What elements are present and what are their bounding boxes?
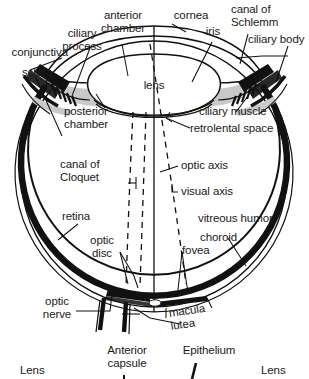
label-posterior-chamber: posterior chamber xyxy=(64,105,128,130)
label-lens-left: Lens xyxy=(20,364,70,377)
label-optic-axis: optic axis xyxy=(181,159,247,172)
label-anterior-chamber: anterior chamber xyxy=(88,9,158,34)
label-choroid: choroid xyxy=(200,231,258,244)
label-epithelium: Epithelium xyxy=(173,344,245,357)
label-cornea: cornea xyxy=(165,9,217,22)
label-fovea: fovea xyxy=(182,244,226,257)
label-optic-disc: optic disc xyxy=(82,234,122,259)
eye-anatomy-figure: conjunctiva sclera ciliary process anter… xyxy=(0,0,309,379)
label-iris: iris xyxy=(198,25,228,38)
label-canal-of-schlemm: canal of Schlemm xyxy=(231,3,307,28)
label-sclera: sclera xyxy=(4,66,52,79)
label-visual-axis: visual axis xyxy=(181,185,249,198)
label-anterior-capsule: Anterior capsule xyxy=(96,344,158,369)
label-vitreous-humor: vitreous humor xyxy=(198,212,294,225)
label-lens-right: Lens xyxy=(261,364,305,377)
label-retrolental-space: retrolental space xyxy=(190,122,300,135)
label-optic-nerve: optic nerve xyxy=(36,295,78,320)
label-ciliary-muscle: ciliary muscle xyxy=(199,105,283,118)
label-canal-of-cloquet: canal of Cloquet xyxy=(60,158,126,183)
label-lens: lens xyxy=(136,79,172,92)
label-retina: retina xyxy=(62,210,110,223)
label-ciliary-body: ciliary body xyxy=(248,33,309,46)
